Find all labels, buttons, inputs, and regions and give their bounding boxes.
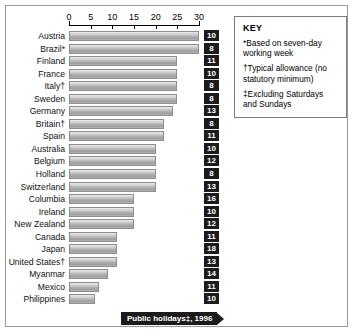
public-holidays-badge: 18 [204, 243, 219, 254]
country-label: Ireland [6, 206, 65, 219]
bar-track [69, 194, 134, 204]
bar-track [69, 106, 173, 116]
bar-track [69, 69, 177, 79]
public-holidays-badge: 10 [204, 293, 219, 304]
holiday-bar [69, 182, 156, 192]
holiday-bar [69, 194, 134, 204]
chart-row: Columbia16 [6, 193, 221, 206]
bar-track [69, 294, 95, 304]
x-axis-tick-mark [112, 26, 113, 29]
country-label: Holland [6, 168, 65, 181]
holiday-bar [69, 69, 177, 79]
public-holidays-badge: 8 [204, 43, 219, 54]
holiday-bar [69, 119, 164, 129]
x-axis-tick-label: 10 [107, 12, 117, 23]
public-holidays-badge: 11 [204, 281, 219, 292]
country-label: Switzerland [6, 181, 65, 194]
public-holidays-badge: 8 [204, 93, 219, 104]
chart-row: New Zealand12 [6, 218, 221, 231]
holiday-bar [69, 94, 177, 104]
country-label: New Zealand [6, 218, 65, 231]
x-axis-tick-label: 20 [151, 12, 161, 23]
holiday-bar [69, 294, 95, 304]
key-note: ‡Excluding Saturdays and Sundays [243, 89, 339, 109]
holiday-bar [69, 282, 99, 292]
chart-title-callout: Public holidays‡, 1996 [121, 312, 224, 325]
country-label: United States† [6, 256, 65, 269]
chart-row: Austria10 [6, 30, 221, 43]
holiday-bar [69, 219, 134, 229]
holiday-bar [69, 169, 156, 179]
chart-row: France10 [6, 68, 221, 81]
holiday-bar [69, 106, 173, 116]
bar-track [69, 269, 108, 279]
x-axis-tick-label: 15 [129, 12, 139, 23]
country-label: Columbia [6, 193, 65, 206]
public-holidays-badge: 12 [204, 155, 219, 166]
chart-page: 051015202530 Austria10Brazil*8Finland11F… [0, 0, 353, 332]
public-holidays-badge: 16 [204, 193, 219, 204]
chart-title-label: Public holidays‡, 1996 [121, 312, 217, 325]
chart-row: Australia10 [6, 143, 221, 156]
public-holidays-badge: 10 [204, 30, 219, 41]
public-holidays-badge: 11 [204, 231, 219, 242]
country-label: Philippines [6, 293, 65, 306]
chart-row: United States†13 [6, 256, 221, 269]
x-axis-cap-right [199, 21, 200, 26]
key-note: *Based on seven-day working week [243, 38, 339, 58]
bar-track [69, 282, 99, 292]
holiday-bar [69, 207, 134, 217]
holiday-bar [69, 31, 199, 41]
holiday-bar [69, 269, 108, 279]
chart-row: Sweden8 [6, 93, 221, 106]
x-axis-tick-labels: 051015202530 [6, 12, 221, 24]
chart-row: Canada11 [6, 231, 221, 244]
chart-row: Mexico11 [6, 281, 221, 294]
holiday-bar [69, 244, 117, 254]
x-axis-tick-mark [156, 26, 157, 29]
country-label: France [6, 68, 65, 81]
chart-row: Brazil*8 [6, 43, 221, 56]
public-holidays-badge: 10 [204, 143, 219, 154]
country-label: Britain† [6, 118, 65, 131]
bar-track [69, 207, 134, 217]
country-label: Japan [6, 243, 65, 256]
public-holidays-badge: 11 [204, 130, 219, 141]
key-title: KEY [243, 23, 339, 33]
x-axis-tick-mark [134, 26, 135, 29]
x-axis-tick-label: 5 [88, 12, 93, 23]
public-holidays-badge: 13 [204, 256, 219, 267]
chart-row: Myanmar14 [6, 268, 221, 281]
bar-track [69, 219, 134, 229]
country-label: Italy† [6, 80, 65, 93]
country-label: Myanmar [6, 268, 65, 281]
bar-track [69, 81, 177, 91]
bar-track [69, 44, 199, 54]
public-holidays-badge: 13 [204, 105, 219, 116]
chart-frame: 051015202530 Austria10Brazil*8Finland11F… [5, 5, 348, 327]
bar-track [69, 94, 177, 104]
public-holidays-badge: 11 [204, 55, 219, 66]
bar-track [69, 169, 156, 179]
country-label: Austria [6, 30, 65, 43]
chart-row: Spain11 [6, 130, 221, 143]
bar-track [69, 232, 117, 242]
country-label: Belgium [6, 155, 65, 168]
bar-track [69, 131, 164, 141]
public-holidays-badge: 8 [204, 80, 219, 91]
holiday-bar [69, 156, 156, 166]
bar-track [69, 182, 156, 192]
holiday-bar [69, 131, 164, 141]
chart-rows: Austria10Brazil*8Finland11France10Italy†… [6, 30, 221, 306]
holiday-bar [69, 56, 177, 66]
country-label: Sweden [6, 93, 65, 106]
chart-row: Finland11 [6, 55, 221, 68]
chart-row: Belgium12 [6, 155, 221, 168]
chart-row: Philippines10 [6, 293, 221, 306]
bar-track [69, 56, 177, 66]
country-label: Finland [6, 55, 65, 68]
key-legend-box: KEY *Based on seven-day working week †Ty… [234, 16, 347, 118]
public-holidays-badge: 14 [204, 268, 219, 279]
holiday-bar [69, 257, 117, 267]
x-axis-tick-label: 25 [172, 12, 182, 23]
